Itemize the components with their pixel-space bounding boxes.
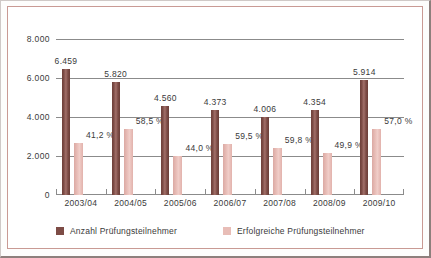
x-axis-tick-mark	[106, 189, 107, 195]
x-axis-tick-label: 2003/04	[64, 198, 97, 208]
legend-item-label: Erfolgreiche Prüfungsteilnehmer	[237, 226, 365, 236]
x-axis-tick-mark	[155, 189, 156, 195]
chart-inner-frame: 02.0004.0006.0008.0006.45941,2 %5.82058,…	[7, 6, 423, 249]
bar-value-label: 6.459	[55, 56, 78, 66]
bar-successful-participants[interactable]	[323, 153, 332, 195]
bar-group: 4.35449,9 %	[305, 39, 355, 195]
chart-figure-card: 02.0004.0006.0008.0006.45941,2 %5.82058,…	[0, 0, 431, 258]
y-axis-tick-label: 4.000	[27, 112, 50, 122]
bar-successful-participants[interactable]	[223, 144, 232, 195]
bar-value-label: 4.373	[204, 97, 227, 107]
x-axis-tick-label: 2007/08	[263, 198, 296, 208]
bar-successful-participants[interactable]	[124, 129, 133, 195]
bar-value-label: 4.560	[154, 93, 177, 103]
legend-item-label: Anzahl Prüfungsteilnehmer	[70, 226, 177, 236]
legend-item[interactable]: Erfolgreiche Prüfungsteilnehmer	[223, 226, 365, 236]
x-axis-tick-label: 2006/07	[214, 198, 247, 208]
y-axis-tick-label: 6.000	[27, 73, 50, 83]
x-axis-tick-mark	[255, 189, 256, 195]
legend-item[interactable]: Anzahl Prüfungsteilnehmer	[56, 226, 177, 236]
bar-group: 5.82058,5 %	[106, 39, 156, 195]
bar-total-participants[interactable]	[211, 110, 219, 195]
x-axis-tick-mark	[56, 189, 57, 195]
bar-total-participants[interactable]	[311, 110, 319, 195]
y-axis-tick-label: 0	[45, 190, 50, 200]
x-axis-tick-mark	[354, 189, 355, 195]
bar-successful-participants[interactable]	[372, 129, 381, 195]
legend-swatch-icon	[223, 227, 231, 235]
bar-group: 6.45941,2 %	[56, 39, 106, 195]
bar-total-participants[interactable]	[261, 117, 269, 195]
x-axis: 2003/042004/052005/062006/072007/082008/…	[56, 195, 404, 217]
bar-total-participants[interactable]	[112, 82, 120, 195]
x-axis-tick-mark	[305, 189, 306, 195]
x-axis-tick-label: 2005/06	[164, 198, 197, 208]
chart-plot-area: 02.0004.0006.0008.0006.45941,2 %5.82058,…	[56, 39, 404, 195]
bar-total-participants[interactable]	[360, 80, 368, 195]
bar-total-participants[interactable]	[161, 106, 169, 195]
y-axis-tick-label: 8.000	[27, 34, 50, 44]
bar-group: 5.91457,0 %	[354, 39, 404, 195]
bar-successful-participants[interactable]	[173, 156, 182, 195]
bar-group: 4.56044,0 %	[155, 39, 205, 195]
bar-value-label: 4.354	[303, 97, 326, 107]
bar-percent-label: 57,0 %	[384, 116, 412, 126]
bar-total-participants[interactable]	[62, 69, 70, 195]
x-axis-tick-label: 2009/10	[363, 198, 396, 208]
legend-swatch-icon	[56, 227, 64, 235]
x-axis-tick-mark	[403, 189, 404, 195]
x-axis-tick-label: 2004/05	[114, 198, 147, 208]
bar-successful-participants[interactable]	[273, 148, 282, 195]
bar-group: 4.37359,5 %	[205, 39, 255, 195]
bar-value-label: 5.914	[353, 67, 376, 77]
bar-group: 4.00659,8 %	[255, 39, 305, 195]
y-axis-tick-label: 2.000	[27, 151, 50, 161]
x-axis-tick-mark	[205, 189, 206, 195]
bar-successful-participants[interactable]	[74, 143, 83, 195]
bar-value-label: 4.006	[253, 104, 276, 114]
x-axis-tick-label: 2008/09	[313, 198, 346, 208]
bar-value-label: 5.820	[104, 69, 127, 79]
